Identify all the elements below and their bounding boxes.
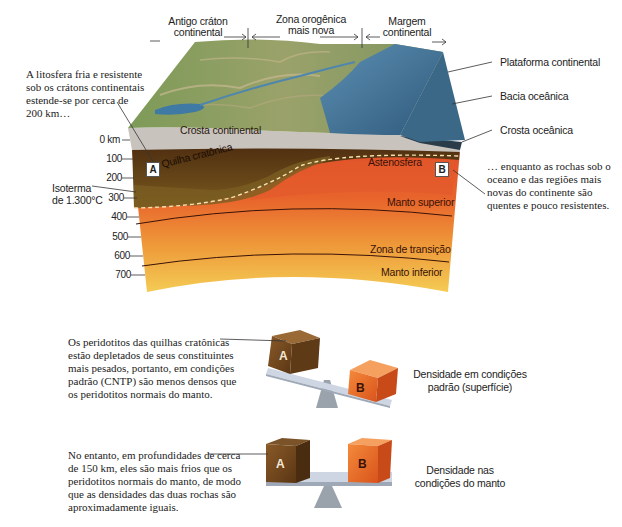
region-label-old-craton: Antigo cráton continental	[158, 16, 238, 38]
cube-b-label-2: B	[358, 457, 367, 471]
depth-tick-600: 600	[96, 250, 130, 261]
region-label-orogenic-zone-line2: mais nova	[266, 25, 356, 36]
depth-tick-400: 400	[93, 211, 127, 222]
cube-a-label-1: A	[279, 349, 288, 363]
label-continental-crust: Crosta continental	[180, 124, 261, 136]
isotherm-label-line2: de 1.300°C	[52, 194, 103, 206]
region-label-continental-margin-line2: continental	[374, 27, 440, 38]
label-lower-mantle: Manto inferior	[381, 266, 442, 278]
density-caption-surface: Densidade em condições padrão (superfíci…	[410, 368, 530, 394]
isotherm-label-line1: Isoterma	[52, 182, 103, 194]
label-oceanic-crust: Crosta oceânica	[500, 124, 573, 136]
label-ocean-basin: Bacia oceânica	[500, 90, 568, 102]
region-label-old-craton-line2: continental	[158, 27, 238, 38]
density-caption-mantle-line2: condições do manto	[410, 477, 510, 490]
density-caption-mantle-line1: Densidade nas	[410, 464, 510, 477]
cube-a-label-2: A	[276, 457, 285, 471]
region-label-continental-margin: Margem continental	[374, 16, 440, 38]
marker-b: B	[435, 162, 449, 177]
label-asthenosphere: Astenosfera	[368, 156, 422, 168]
label-continental-shelf: Plataforma continental	[500, 56, 600, 68]
density-caption-surface-line1: Densidade em condições	[410, 368, 530, 381]
seesaw-surface-conditions: A B	[220, 330, 398, 408]
density-caption-mantle: Densidade nas condições do manto	[410, 464, 510, 490]
depth-tick-500: 500	[94, 231, 128, 242]
density-description-surface: Os peridotitos das quilhas cratônicas es…	[68, 336, 246, 401]
marker-a: A	[146, 162, 160, 177]
depth-tick-0: 0 km	[86, 134, 120, 145]
cube-b-label-1: B	[356, 381, 365, 395]
lithosphere-callout: A litosfera fria e resistente sob os crá…	[26, 68, 146, 120]
density-caption-surface-line2: padrão (superfície)	[410, 381, 530, 394]
density-description-mantle: No entanto, em profundidades de cerca de…	[68, 449, 248, 514]
label-upper-mantle: Manto superior	[387, 196, 454, 208]
region-label-orogenic-zone: Zona orogênica mais nova	[266, 14, 356, 36]
depth-tick-100: 100	[88, 153, 122, 164]
asthenosphere-callout: … enquanto as rochas sob o oceano e das …	[487, 160, 617, 212]
depth-tick-700: 700	[97, 269, 131, 280]
isotherm-label: Isoterma de 1.300°C	[52, 182, 103, 206]
label-transition-zone: Zona de transição	[370, 243, 451, 255]
